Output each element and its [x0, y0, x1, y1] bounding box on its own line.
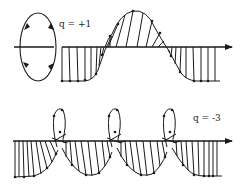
diagram-canvas: [0, 0, 242, 189]
top-vectors-right: [168, 47, 220, 81]
bottom-charge-label: q = -3: [193, 113, 221, 123]
top-panel: [14, 10, 232, 83]
top-vectors-left: [62, 36, 112, 81]
bottom-arch-2: [117, 141, 167, 176]
bottom-vectors-left: [15, 141, 58, 177]
bottom-arch-1: [62, 141, 112, 176]
bottom-vectors-right: [172, 141, 222, 176]
bottom-dots: [14, 109, 215, 179]
top-charge-label: q = +1: [59, 19, 91, 29]
top-arch: [105, 11, 170, 52]
